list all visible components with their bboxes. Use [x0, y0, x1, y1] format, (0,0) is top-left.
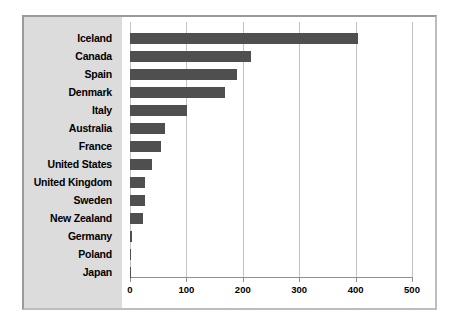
category-label: United Kingdom — [0, 173, 112, 191]
bar — [130, 195, 145, 206]
bar-row: Italy — [0, 101, 462, 119]
category-label: Spain — [0, 65, 112, 83]
bar-row: Australia — [0, 119, 462, 137]
bar — [130, 267, 131, 278]
category-label: Iceland — [0, 29, 112, 47]
category-label: Sweden — [0, 191, 112, 209]
bar-row: Poland — [0, 245, 462, 263]
chart-figure: 0100200300400500 IcelandCanadaSpainDenma… — [0, 0, 462, 328]
category-label: Australia — [0, 119, 112, 137]
bar — [130, 87, 225, 98]
category-label: Italy — [0, 101, 112, 119]
category-label: Japan — [0, 263, 112, 281]
category-label: United States — [0, 155, 112, 173]
bar-row: Spain — [0, 65, 462, 83]
bar — [130, 177, 145, 188]
bar-row: Denmark — [0, 83, 462, 101]
bar — [130, 213, 143, 224]
bar-row: Sweden — [0, 191, 462, 209]
bar-row: New Zealand — [0, 209, 462, 227]
category-label: France — [0, 137, 112, 155]
bar — [130, 69, 237, 80]
category-label: Poland — [0, 245, 112, 263]
bar — [130, 51, 251, 62]
bar-row: Germany — [0, 227, 462, 245]
bar — [130, 105, 187, 116]
bar — [130, 159, 152, 170]
bar-row: Japan — [0, 263, 462, 281]
bar — [130, 249, 131, 260]
bar-row: United States — [0, 155, 462, 173]
category-label: New Zealand — [0, 209, 112, 227]
bar-row: Iceland — [0, 29, 462, 47]
bar-row: France — [0, 137, 462, 155]
bar-row: Canada — [0, 47, 462, 65]
category-label: Germany — [0, 227, 112, 245]
bar — [130, 33, 358, 44]
bar-row: United Kingdom — [0, 173, 462, 191]
bar-rows: IcelandCanadaSpainDenmarkItalyAustraliaF… — [0, 0, 462, 328]
bar — [130, 141, 161, 152]
category-label: Canada — [0, 47, 112, 65]
category-label: Denmark — [0, 83, 112, 101]
bar — [130, 231, 132, 242]
bar — [130, 123, 165, 134]
